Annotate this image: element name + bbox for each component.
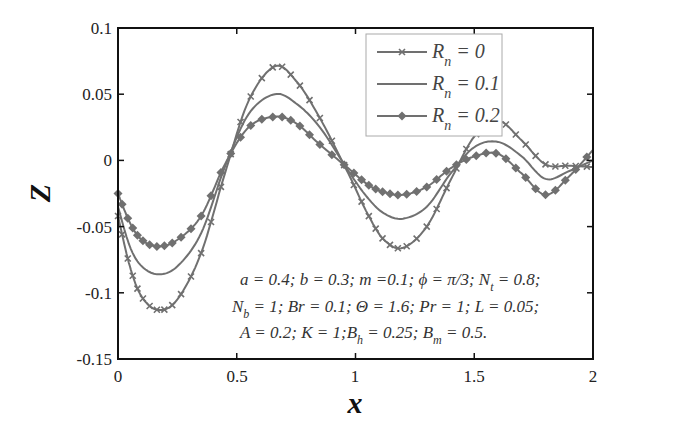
x-axis-title: x: [347, 386, 363, 419]
y-axis-title: Z: [23, 184, 56, 203]
x-tick-label: 2: [589, 367, 598, 386]
annotation-line-3: A = 0.2; K = 1;Bh = 0.25; Bm = 0.5.: [239, 323, 487, 347]
line-chart: 0.1 0.05 0 -0.05 -0.1 -0.15 0 0.5 1 1.5 …: [0, 0, 683, 431]
y-tick-label: 0: [104, 151, 113, 170]
annotation-line-2: Nb = 1; Br = 0.1; Θ = 1.6; Pr = 1; L = 0…: [231, 297, 539, 321]
legend: Rn = 0 Rn = 0.1 Rn = 0.2: [366, 34, 502, 136]
parameter-annotation: a = 0.4; b = 0.3; m =0.1; ϕ = π/3; Nt = …: [231, 270, 540, 347]
x-tick-label: 0: [114, 367, 123, 386]
x-tick-label: 0.5: [226, 367, 247, 386]
y-tick-label: -0.1: [85, 284, 112, 303]
x-tick-label: 1.5: [463, 367, 484, 386]
x-tick-label: 1: [351, 367, 360, 386]
y-tick-label: 0.05: [82, 85, 112, 104]
y-tick-label: -0.15: [77, 350, 112, 369]
annotation-line-1: a = 0.4; b = 0.3; m =0.1; ϕ = π/3; Nt = …: [240, 270, 540, 294]
y-tick-label: -0.05: [77, 218, 112, 237]
y-tick-label: 0.1: [91, 19, 112, 38]
